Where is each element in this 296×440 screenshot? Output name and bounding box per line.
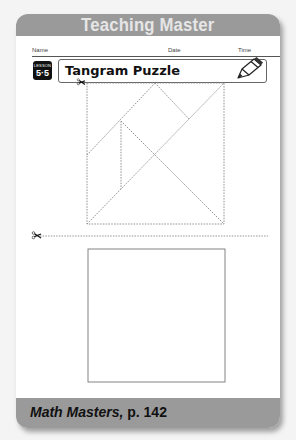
tangram-cutout bbox=[87, 83, 224, 224]
tangram-drawing bbox=[0, 0, 296, 440]
scissors-icon bbox=[32, 232, 41, 239]
scissors-icon bbox=[77, 79, 85, 85]
blank-square-outline bbox=[88, 249, 225, 382]
